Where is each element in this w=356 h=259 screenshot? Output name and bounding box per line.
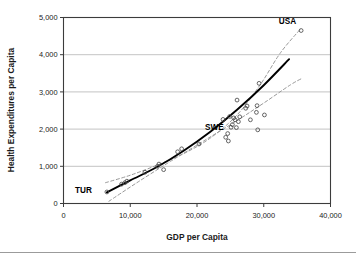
y-tick-label: 3,000 <box>39 88 58 97</box>
annotation-swe: SWE <box>205 123 224 132</box>
annotation-usa: USA <box>279 17 296 26</box>
x-tick-label: 10,000 <box>119 211 142 220</box>
x-axis-title: GDP per Capita <box>166 232 228 242</box>
chart-figure: 01,0002,0003,0004,0005,000 010,00020,000… <box>0 0 356 259</box>
x-tick-label: 0 <box>61 211 65 220</box>
scatter-plot: 01,0002,0003,0004,0005,000 010,00020,000… <box>0 0 356 259</box>
y-tick-label: 1,000 <box>39 162 58 171</box>
y-axis-title: Health Expenditures per Capita <box>6 48 16 173</box>
y-tick-label: 5,000 <box>39 13 58 22</box>
x-tick-label: 40,000 <box>319 211 342 220</box>
y-tick-label: 2,000 <box>39 125 58 134</box>
y-tick-label: 4,000 <box>39 50 58 59</box>
x-tick-label: 20,000 <box>186 211 209 220</box>
x-tick-label: 30,000 <box>252 211 275 220</box>
annotation-tur: TUR <box>75 186 92 195</box>
y-tick-label: 0 <box>53 199 57 208</box>
